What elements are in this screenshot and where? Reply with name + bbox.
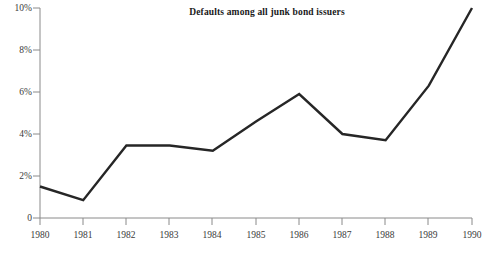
x-tick-label-1985: 1985 [236,230,276,240]
y-tick-label-4: 4% [2,129,32,139]
x-tick-label-1986: 1986 [279,230,319,240]
x-tick-label-1983: 1983 [149,230,189,240]
x-tick-label-1984: 1984 [192,230,232,240]
data-series-line [40,8,472,200]
x-axis-ticks [40,218,472,225]
y-tick-label-10: 10% [2,3,32,13]
x-tick-label-1982: 1982 [106,230,146,240]
y-tick-label-8: 8% [2,45,32,55]
x-tick-label-1987: 1987 [322,230,362,240]
chart-container: Defaults among all junk bond issuers [0,0,494,253]
y-axis-ticks [33,8,40,218]
x-tick-label-1988: 1988 [365,230,405,240]
chart-plot-area [0,0,494,253]
x-tick-label-1981: 1981 [63,230,103,240]
x-tick-label-1989: 1989 [408,230,448,240]
x-tick-label-1980: 1980 [20,230,60,240]
x-tick-label-1990: 1990 [452,230,492,240]
y-tick-label-0: 0 [2,213,32,223]
y-tick-label-6: 6% [2,87,32,97]
y-tick-label-2: 2% [2,171,32,181]
